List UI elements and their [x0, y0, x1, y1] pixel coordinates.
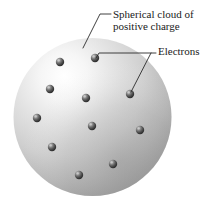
electron-highlight [47, 86, 50, 88]
electron-body [75, 171, 83, 179]
electron-highlight [92, 55, 95, 57]
electron-particle [46, 85, 54, 93]
electron-particle [109, 160, 117, 168]
electron-highlight [137, 127, 140, 129]
electron-highlight [34, 115, 37, 117]
electron-highlight [83, 95, 86, 97]
spherical-cloud-label-line1: Spherical cloud of [113, 8, 194, 20]
electron-particle [82, 94, 90, 102]
electron-body [48, 143, 56, 151]
electron-highlight [49, 144, 52, 146]
electron-highlight [76, 172, 79, 174]
electron-body [109, 160, 117, 168]
electron-particle [136, 126, 144, 134]
electrons-label-text: Electrons [158, 45, 200, 57]
electron-highlight [57, 59, 60, 61]
electron-particle [56, 58, 64, 66]
electron-body [88, 122, 96, 130]
electron-body [82, 94, 90, 102]
electron-particle [126, 90, 134, 98]
electron-body [46, 85, 54, 93]
electron-particle [48, 143, 56, 151]
atom-model-figure: Spherical cloud of positive charge Elect… [0, 0, 215, 207]
spherical-cloud-label-line2: positive charge [113, 20, 180, 32]
electron-particle [88, 122, 96, 130]
electron-body [126, 90, 134, 98]
electron-body [136, 126, 144, 134]
electron-body [33, 114, 41, 122]
atom-diagram-canvas: Spherical cloud of positive charge Elect… [0, 0, 215, 207]
electron-body [56, 58, 64, 66]
electron-highlight [89, 123, 92, 125]
electron-particle [33, 114, 41, 122]
electron-highlight [110, 161, 113, 163]
electron-highlight [127, 91, 130, 93]
electron-particle [75, 171, 83, 179]
